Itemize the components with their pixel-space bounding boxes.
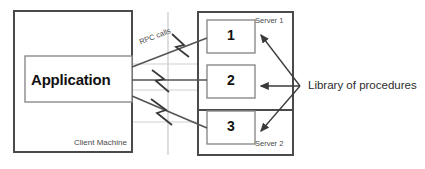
procedure-number-3: 3	[207, 118, 255, 134]
library-arrow-to-procedure-3	[261, 86, 300, 131]
server-2-label: Server 2	[255, 139, 283, 148]
server-1-label: Server 1	[255, 16, 283, 25]
library-of-procedures-label: Library of procedures	[308, 79, 417, 91]
application-label: Application	[31, 71, 110, 88]
diagram-canvas: Application Client Machine RPC calls Ser…	[0, 0, 425, 169]
client-machine-label: Client Machine	[74, 138, 127, 147]
library-arrow-to-procedure-1	[261, 35, 300, 86]
procedure-number-1: 1	[207, 27, 255, 43]
procedure-number-2: 2	[207, 72, 255, 88]
rpc-zigzag-2	[152, 70, 169, 92]
